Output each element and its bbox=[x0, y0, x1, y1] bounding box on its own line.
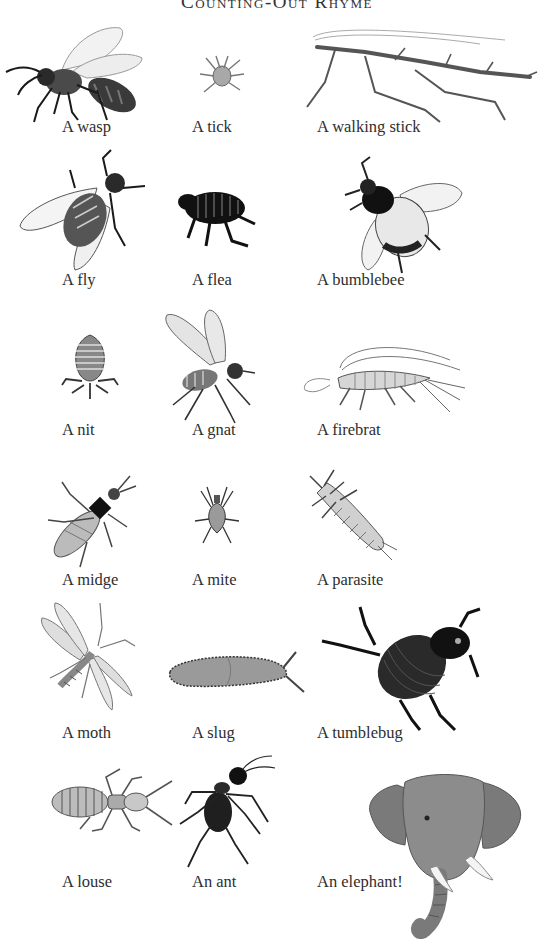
label-parasite: A parasite bbox=[317, 570, 383, 590]
wasp-icon bbox=[2, 20, 147, 120]
label-midge: A midge bbox=[62, 570, 118, 590]
label-tick: A tick bbox=[192, 117, 232, 137]
gnat-icon bbox=[155, 305, 255, 423]
label-tumblebug: A tumblebug bbox=[317, 723, 403, 743]
label-ant: An ant bbox=[192, 872, 236, 892]
label-gnat: A gnat bbox=[192, 420, 236, 440]
label-fly: A fly bbox=[62, 270, 95, 290]
label-louse: A louse bbox=[62, 872, 112, 892]
flea-icon bbox=[170, 186, 260, 248]
label-mite: A mite bbox=[192, 570, 236, 590]
tumblebug-icon bbox=[320, 605, 480, 730]
tick-icon bbox=[196, 52, 248, 100]
page-title: Counting-Out Rhyme bbox=[0, 0, 554, 13]
label-nit: A nit bbox=[62, 420, 95, 440]
nit-icon bbox=[60, 333, 120, 401]
mite-icon bbox=[193, 485, 241, 545]
label-slug: A slug bbox=[192, 723, 235, 743]
label-wasp: A wasp bbox=[62, 117, 111, 137]
label-walking-stick: A walking stick bbox=[317, 117, 421, 137]
louse-icon bbox=[50, 767, 175, 842]
label-flea: A flea bbox=[192, 270, 232, 290]
moth-icon bbox=[30, 598, 140, 713]
label-elephant: An elephant! bbox=[317, 872, 403, 892]
label-moth: A moth bbox=[62, 723, 111, 743]
walking-stick-icon bbox=[305, 22, 550, 122]
ant-icon bbox=[180, 752, 280, 867]
label-firebrat: A firebrat bbox=[317, 420, 381, 440]
midge-icon bbox=[42, 472, 137, 567]
fly-icon bbox=[15, 148, 145, 273]
parasite-icon bbox=[302, 468, 397, 563]
firebrat-icon bbox=[300, 340, 465, 415]
label-bumblebee: A bumblebee bbox=[317, 270, 405, 290]
bumblebee-icon bbox=[340, 155, 465, 273]
elephant-icon bbox=[365, 770, 525, 939]
slug-icon bbox=[168, 650, 308, 695]
